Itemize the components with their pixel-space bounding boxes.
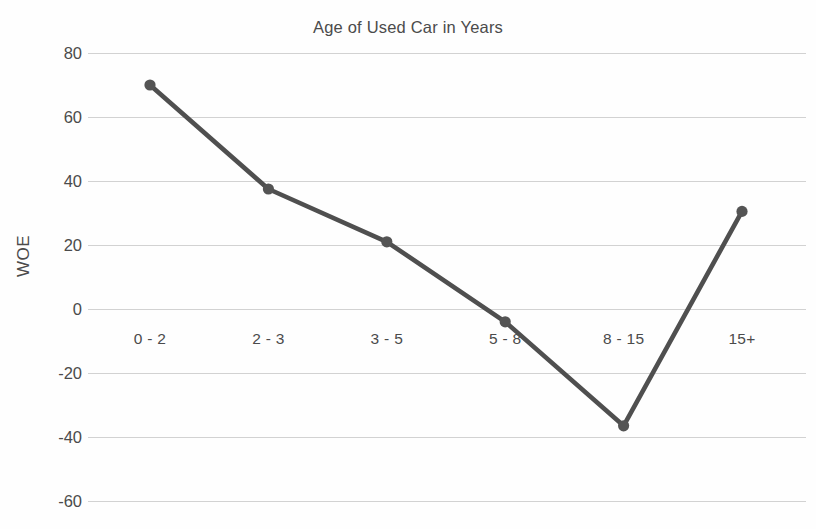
data-series-layer — [0, 0, 816, 529]
data-point-marker — [144, 79, 155, 90]
series-line — [150, 85, 742, 426]
data-point-marker — [618, 420, 629, 431]
data-point-marker — [500, 316, 511, 327]
chart-container: Age of Used Car in Years WOE 806040200-2… — [0, 0, 816, 529]
data-point-marker — [736, 206, 747, 217]
data-point-marker — [263, 183, 274, 194]
data-point-marker — [381, 236, 392, 247]
